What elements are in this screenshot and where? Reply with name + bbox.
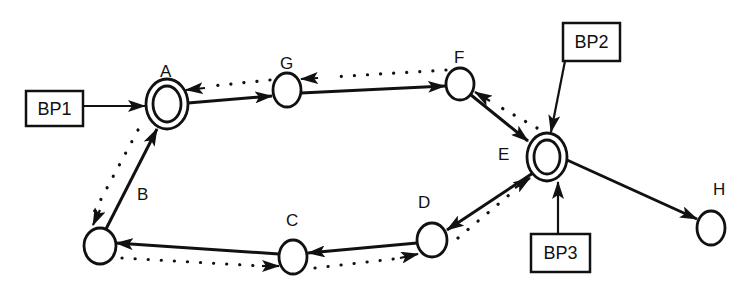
node-h [697,211,725,245]
edge-e-to-h [567,160,697,219]
box-bp2: BP2 [563,23,620,61]
box-label: BP2 [574,32,608,52]
label-h: H [713,180,725,199]
dotted-f-to-g [330,70,446,77]
box-bp1: BP1 [26,91,83,126]
label-c: C [286,211,298,230]
state-transition-diagram: BP1 BP2 BP3 [0,0,754,306]
node-e [527,133,567,181]
edge-n-to-a-b [106,129,157,229]
dotted-arrow-c-to-d [400,254,418,258]
label-b: B [137,185,148,204]
node-f [446,68,474,100]
box-label: BP1 [37,99,71,119]
node-c [279,240,307,274]
label-f: F [454,48,464,67]
label-g: G [280,54,293,73]
label-e: E [498,145,509,164]
node-a [146,79,188,129]
edge-d-to-c [308,243,417,253]
dotted-arrow-f-to-g [301,78,318,79]
label-d: D [418,193,430,212]
dotted-d-to-e [458,190,515,238]
box-label: BP3 [543,243,577,263]
edge-bp2-to-e [551,61,565,132]
dotted-arrow-g-to-a [186,88,205,90]
edge-a-to-g [188,96,272,103]
node-d [417,223,447,257]
edge-f-to-e [471,95,528,141]
dotted-e-to-f [493,103,537,128]
edge-e-to-d [447,173,533,230]
node-g [273,73,301,107]
node-labels: A G F E D C H B [137,48,725,230]
box-bp3: BP3 [531,234,590,272]
label-a: A [160,62,172,81]
dotted-c-to-d [315,258,402,268]
dotted-n-to-c [122,258,262,266]
edge-g-to-f [301,86,445,93]
dotted-g-to-a [212,80,270,86]
node-unlabeled [84,228,116,264]
dotted-a-to-n [92,130,138,216]
edge-c-to-n [116,243,279,254]
